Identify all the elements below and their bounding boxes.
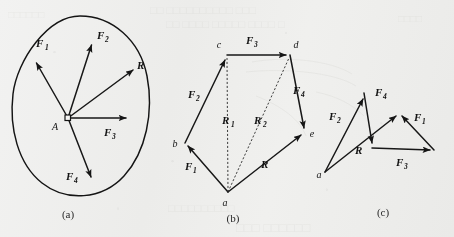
vector-label-c-F2: F: [328, 110, 337, 122]
point-label-b-b: b: [173, 138, 178, 149]
caption-b: (b): [227, 212, 240, 225]
vector-label-a-F1: F: [35, 37, 44, 49]
vector-sub-b-F4: 4: [300, 90, 305, 99]
vector-sub-a-F2: 2: [104, 35, 109, 44]
vector-a-F2: F 2: [68, 29, 109, 118]
vector-c-F1: F 1: [402, 111, 434, 150]
partial-resultant-b-R1: R 1: [221, 58, 235, 192]
vector-sub-a-F1: 1: [45, 43, 49, 52]
point-a-origin-marker: [65, 115, 71, 121]
vector-sub-b-F3: 3: [253, 40, 258, 49]
figure-root: □□ □□□□□□□□□□ □□□ □□ □□□□ □□□□□ □□□□ □ □…: [0, 0, 454, 237]
vector-sub-a-F3: 3: [111, 132, 116, 141]
vector-sub-b-F1: 1: [193, 166, 197, 175]
vector-label-a-F3: F: [103, 126, 112, 138]
vector-c-F3: F 3: [372, 148, 430, 171]
svg-text:□□□ □□□□□□: □□□ □□□□□□: [236, 220, 310, 235]
vector-label-a-F4: F: [65, 170, 74, 182]
point-label-b-a: a: [223, 197, 228, 208]
vector-sub-c-F2: 2: [336, 116, 341, 125]
caption-c: (c): [377, 206, 390, 219]
vector-b-R: R: [228, 135, 301, 192]
vector-label-b-F3: F: [245, 34, 254, 46]
body-outline-a: [12, 16, 149, 196]
vector-label-b-R1: R: [221, 114, 229, 126]
vector-sub-b-R1: 1: [231, 120, 235, 129]
panel-a: F 1 F 2 R F 3 F: [12, 16, 149, 221]
vector-sub-b-R2: 2: [262, 120, 267, 129]
vector-label-b-R: R: [260, 158, 268, 170]
svg-text:□□□□: □□□□: [398, 13, 422, 24]
svg-text:□□ □□□□ □□□□□ □□□□ □: □□ □□□□ □□□□□ □□□□ □: [166, 18, 285, 30]
partial-resultant-b-R2: R 2: [228, 58, 289, 192]
vector-label-b-R2: R: [253, 114, 261, 126]
point-label-c-a: a: [317, 169, 322, 180]
vector-a-F1: F 1: [35, 37, 68, 118]
vector-a-F4: F 4: [65, 118, 91, 185]
panel-c: F 2 F 4 F 3 F 1: [317, 86, 435, 219]
vector-c-R: R: [325, 116, 396, 172]
vector-sub-b-F2: 2: [195, 94, 200, 103]
vector-c-F4: F 4: [364, 86, 387, 143]
vector-label-b-F1: F: [184, 160, 193, 172]
point-label-b-d: d: [294, 39, 300, 50]
vector-sub-c-F1: 1: [422, 117, 426, 126]
vector-label-a-F2: F: [96, 29, 105, 41]
point-label-b-e: e: [310, 128, 315, 139]
vector-label-c-F3: F: [395, 156, 404, 168]
vector-sub-c-F4: 4: [382, 92, 387, 101]
vector-a-F3: F 3: [68, 118, 126, 141]
svg-text:□□□□□□: □□□□□□: [8, 9, 44, 20]
caption-a: (a): [62, 208, 75, 221]
force-diagram-svg: □□ □□□□□□□□□□ □□□ □□ □□□□ □□□□□ □□□□ □ □…: [0, 0, 454, 237]
vector-label-b-F2: F: [187, 88, 196, 100]
vector-label-a-R: R: [136, 59, 144, 71]
vector-sub-c-F3: 3: [403, 162, 408, 171]
vector-label-b-F4: F: [292, 84, 301, 96]
vector-b-F1: F 1: [184, 146, 228, 192]
svg-text:□□ □□□□□□□□□□ □□□: □□ □□□□□□□□□□ □□□: [150, 4, 256, 16]
panel-b: F 1 F 2 F 3 F 4: [173, 34, 315, 225]
point-label-b-c: c: [217, 39, 222, 50]
vector-label-c-F1: F: [413, 111, 422, 123]
vector-label-c-R: R: [354, 144, 362, 156]
point-label-a-A: A: [51, 121, 59, 132]
vector-sub-a-F4: 4: [73, 176, 78, 185]
vector-a-R: R: [68, 59, 144, 118]
vector-c-F2: F 2: [325, 99, 363, 172]
vector-b-F3: F 3: [227, 34, 286, 55]
vector-label-c-F4: F: [374, 86, 383, 98]
vector-b-F2: F 2: [185, 60, 225, 143]
